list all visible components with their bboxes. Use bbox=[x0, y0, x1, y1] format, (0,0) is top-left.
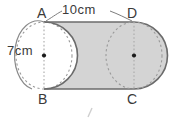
dim-leader-left bbox=[46, 11, 62, 21]
right-circle-center-dot bbox=[132, 53, 136, 57]
dimension-label-radius: 7cm bbox=[7, 44, 33, 57]
vertex-label-c: C bbox=[127, 92, 137, 106]
vertex-label-b: B bbox=[38, 92, 47, 106]
figure-canvas bbox=[0, 0, 179, 120]
left-circle-center-dot bbox=[42, 53, 46, 57]
vertex-label-d: D bbox=[127, 6, 137, 20]
dimension-label-length: 10cm bbox=[62, 3, 96, 16]
footer-slash-mark bbox=[88, 108, 92, 117]
geometry-figure: A B C D 10cm 7cm bbox=[0, 0, 179, 120]
vertex-label-a: A bbox=[37, 6, 46, 20]
